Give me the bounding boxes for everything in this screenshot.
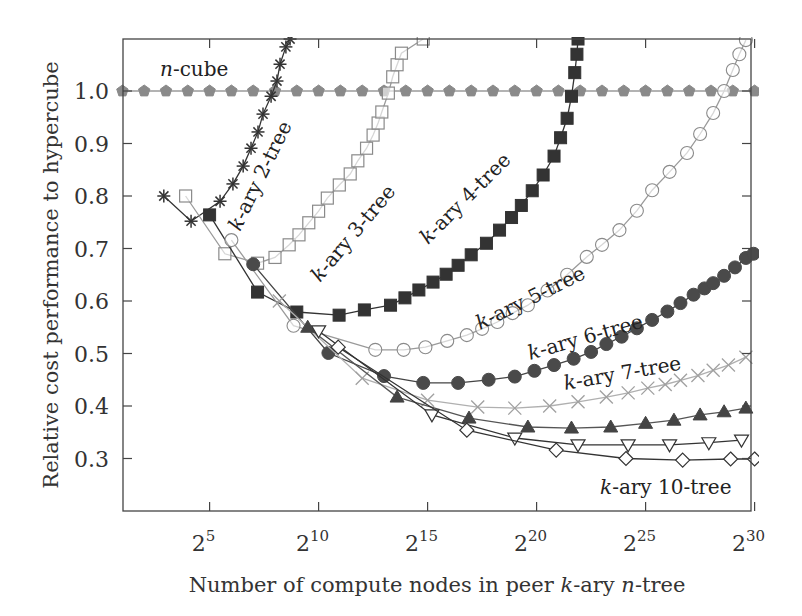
series-label: k-ary 10-tree (600, 475, 732, 499)
series-layer (117, 33, 762, 468)
y-axis-title: Relative cost performance to hypercube (39, 61, 63, 488)
y-tick-label: 0.7 (74, 237, 109, 262)
x-tick-label: 230 (732, 527, 765, 556)
y-tick-label: 0.5 (74, 342, 109, 367)
x-tick-label: 215 (405, 527, 438, 556)
series-label: k-ary 3-tree (305, 180, 400, 286)
series-n-cube (117, 85, 761, 96)
x-tick-label: 210 (296, 527, 329, 556)
y-tick-label: 0.3 (74, 447, 109, 472)
series-markers (301, 320, 753, 433)
chart: 0.30.40.50.60.70.80.91.02521021522022523… (0, 0, 802, 616)
x-tick-label: 25 (192, 527, 216, 556)
y-tick-label: 0.8 (74, 184, 109, 209)
series-k-ary-8-tree (301, 320, 753, 433)
series-label: n-cube (160, 57, 228, 81)
y-tick-label: 1.0 (74, 79, 109, 104)
y-tick-label: 0.4 (74, 394, 109, 419)
x-axis-title: Number of compute nodes in peer k-ary n-… (189, 573, 686, 597)
plot-area-frame (123, 39, 751, 511)
x-tick-label: 220 (514, 527, 547, 556)
series-label: k-ary 5-tree (472, 261, 589, 335)
series-label: k-ary 6-tree (525, 309, 646, 365)
x-tick-label: 225 (623, 527, 656, 556)
y-tick-label: 0.9 (74, 132, 109, 157)
y-tick-label: 0.6 (74, 289, 109, 314)
